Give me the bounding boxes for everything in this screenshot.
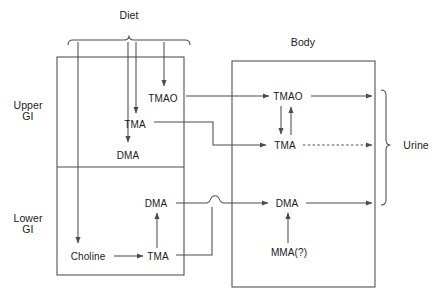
- diet-label: Diet: [119, 10, 138, 21]
- edge-gi-dma-to-body-dma: [176, 196, 268, 203]
- urine-brace: [381, 90, 391, 205]
- urine-label: Urine: [403, 140, 429, 151]
- diagram-vector-layer: [0, 0, 441, 300]
- gi-tract-box: [57, 57, 184, 275]
- edge-gi-tma-lower-to-dma-line: [176, 207, 212, 255]
- body-label: Body: [291, 37, 315, 48]
- node-gi-tmao: TMAO: [148, 93, 177, 104]
- node-gi-dma-lower: DMA: [145, 198, 168, 209]
- node-gi-tma-upper: TMA: [124, 119, 145, 130]
- node-mma: MMA(?): [271, 247, 307, 258]
- node-body-tmao: TMAO: [273, 91, 302, 102]
- diagram-canvas: Diet Body Upper GI Lower GI Urine TMAO T…: [0, 0, 441, 300]
- edge-gi-tma-to-body-tma: [154, 122, 266, 145]
- node-body-tma: TMA: [274, 140, 295, 151]
- node-choline: Choline: [71, 251, 106, 262]
- node-gi-dma-upper: DMA: [117, 150, 140, 161]
- node-body-dma: DMA: [276, 198, 299, 209]
- node-gi-tma-lower: TMA: [147, 251, 168, 262]
- lower-gi-label: Lower GI: [13, 213, 42, 235]
- upper-gi-label: Upper GI: [13, 100, 42, 122]
- diet-brace: [68, 36, 190, 46]
